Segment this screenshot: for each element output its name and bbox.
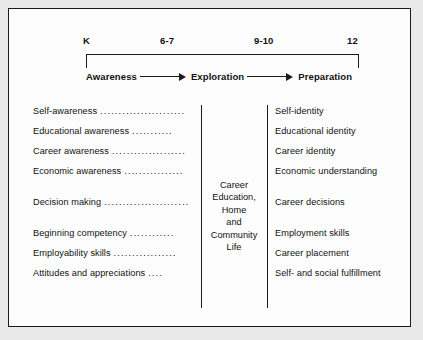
right-arrow-icon [140, 72, 188, 81]
list-item-label: Attitudes and appreciations [33, 268, 145, 278]
list-item-label: Career awareness [33, 146, 109, 156]
dot-leader: ................ [124, 166, 193, 177]
timeline-header: K 6-7 9-10 12 Awareness Exploration Prep… [69, 35, 369, 93]
list-item-label: Self-identity [275, 106, 324, 116]
list-item-label: Career identity [275, 146, 336, 156]
grade-label-6-7: 6-7 [160, 35, 174, 46]
center-column-line: Education, [205, 191, 263, 203]
stage-label-awareness: Awareness [86, 71, 137, 82]
list-item: Educational identity [275, 121, 403, 141]
list-item: Career placement [275, 243, 403, 263]
list-item-label: Economic understanding [275, 166, 377, 176]
list-item-label: Educational identity [275, 126, 356, 136]
list-item-label: Decision making [33, 197, 101, 207]
right-arrow-icon [247, 72, 295, 81]
center-column-line: Community [205, 229, 263, 241]
list-item: Employment skills [275, 223, 403, 243]
list-item-label: Employability skills [33, 248, 111, 258]
list-item-label: Self-awareness [33, 106, 97, 116]
left-column-group: Self-awareness.......................Edu… [33, 101, 195, 181]
right-column-group: Career decisions [275, 192, 403, 212]
list-item-label: Self- and social fulfillment [275, 268, 381, 278]
list-item-label: Career decisions [275, 197, 345, 207]
center-column-line: Career [205, 179, 263, 191]
list-item-label: Educational awareness [33, 126, 129, 136]
center-column-line: and [205, 216, 263, 228]
grade-span-bracket [86, 54, 359, 68]
list-item: Economic awareness................ [33, 161, 195, 181]
list-item: Self- and social fulfillment [275, 263, 403, 283]
left-column-group: Decision making....................... [33, 192, 195, 212]
center-column-label: CareerEducation,HomeandCommunityLife [205, 179, 263, 253]
right-column-group: Employment skillsCareer placementSelf- a… [275, 223, 403, 283]
dot-leader: ................. [114, 248, 193, 259]
center-column-line: Life [205, 241, 263, 253]
column-divider-left [201, 105, 202, 308]
dot-leader: .................... [112, 146, 193, 157]
list-item: Career decisions [275, 192, 403, 212]
grade-scale: K 6-7 9-10 12 [69, 35, 369, 51]
list-item: Employability skills................. [33, 243, 195, 263]
left-column-group: Beginning competency............Employab… [33, 223, 195, 283]
center-column-line: Home [205, 204, 263, 216]
list-item: Career awareness.................... [33, 141, 195, 161]
list-item: Educational awareness........... [33, 121, 195, 141]
list-item-label: Career placement [275, 248, 349, 258]
outcomes-columns: Self-awareness.......................Edu… [33, 101, 403, 309]
dot-leader: ........... [132, 126, 193, 137]
grade-label-12: 12 [347, 35, 358, 46]
list-item: Self-identity [275, 101, 403, 121]
list-item: Beginning competency............ [33, 223, 195, 243]
list-item-label: Economic awareness [33, 166, 121, 176]
list-item: Decision making....................... [33, 192, 195, 212]
stage-label-exploration: Exploration [191, 71, 244, 82]
stage-label-preparation: Preparation [298, 71, 352, 82]
list-item-label: Beginning competency [33, 228, 127, 238]
dot-leader: ....................... [100, 106, 193, 117]
list-item: Self-awareness....................... [33, 101, 195, 121]
list-item: Economic understanding [275, 161, 403, 181]
list-item: Attitudes and appreciations.... [33, 263, 195, 283]
list-item: Career identity [275, 141, 403, 161]
dot-leader: .... [148, 268, 193, 279]
figure-frame: K 6-7 9-10 12 Awareness Exploration Prep… [8, 8, 411, 327]
stage-progression: Awareness Exploration Preparation [86, 71, 378, 82]
dot-leader: ............ [130, 228, 193, 239]
left-column: Self-awareness.......................Edu… [33, 101, 195, 283]
grade-label-9-10: 9-10 [254, 35, 273, 46]
right-column-group: Self-identityEducational identityCareer … [275, 101, 403, 181]
list-item-label: Employment skills [275, 228, 349, 238]
grade-label-k: K [83, 35, 90, 46]
column-divider-right [267, 105, 268, 308]
right-column: Self-identityEducational identityCareer … [275, 101, 403, 283]
dot-leader: ....................... [104, 197, 193, 208]
